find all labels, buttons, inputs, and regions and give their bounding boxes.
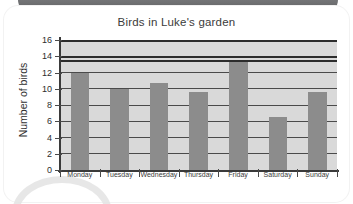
- y-tick-label-12: 12: [28, 68, 52, 78]
- plot-inner: [60, 40, 337, 170]
- x-tick-separator-2: [139, 169, 140, 177]
- x-axis-labels: MondayTuesdayWednesdayThursdayFridaySatu…: [60, 171, 337, 183]
- y-tick-mark-12: [55, 73, 62, 74]
- x-tick-separator-4: [218, 169, 219, 177]
- gridline-10: [60, 88, 337, 89]
- y-tick-mark-10: [55, 89, 62, 90]
- x-tick-separator-3: [179, 169, 180, 177]
- y-tick-label-4: 4: [28, 133, 52, 143]
- y-tick-mark-14: [55, 56, 62, 57]
- plot-area: [60, 40, 337, 170]
- screenshot-root: Birds in Luke's garden Number of birds 0…: [0, 0, 353, 204]
- chart-title: Birds in Luke's garden: [0, 16, 353, 28]
- bar-saturday: [269, 117, 288, 170]
- x-tick-label-wednesday: Wednesday: [139, 171, 179, 178]
- x-tick-label-saturday: Saturday: [258, 171, 298, 178]
- bar-friday: [229, 62, 248, 170]
- bar-monday: [71, 73, 90, 171]
- y-tick-mark-8: [55, 105, 62, 106]
- bar-thursday: [189, 92, 208, 170]
- x-tick-separator-6: [297, 169, 298, 177]
- bar-wednesday: [150, 83, 169, 170]
- x-tick-label-sunday: Sunday: [297, 171, 337, 178]
- x-tick-separator-5: [258, 169, 259, 177]
- y-tick-label-2: 2: [28, 149, 52, 159]
- x-tick-separator-1: [100, 169, 101, 177]
- x-tick-label-thursday: Thursday: [179, 171, 219, 178]
- x-tick-label-friday: Friday: [218, 171, 258, 178]
- y-tick-label-10: 10: [28, 84, 52, 94]
- gridline-14: [60, 56, 337, 58]
- x-tick-separator-end: [337, 169, 338, 177]
- gridline-16: [60, 40, 337, 42]
- y-tick-label-8: 8: [28, 100, 52, 110]
- x-tick-separator-0: [60, 169, 61, 177]
- gridline-12: [60, 72, 337, 73]
- y-tick-mark-4: [55, 138, 62, 139]
- y-tick-label-6: 6: [28, 116, 52, 126]
- y-tick-mark-6: [55, 121, 62, 122]
- x-tick-label-monday: Monday: [60, 171, 100, 178]
- y-tick-mark-2: [55, 154, 62, 155]
- y-tick-label-0: 0: [28, 165, 52, 175]
- y-tick-label-14: 14: [28, 51, 52, 61]
- x-tick-label-tuesday: Tuesday: [100, 171, 140, 178]
- gridline-emphasis: [60, 60, 337, 62]
- bar-tuesday: [110, 89, 129, 170]
- bar-sunday: [308, 92, 327, 170]
- y-tick-label-16: 16: [28, 35, 52, 45]
- y-tick-mark-16: [55, 40, 62, 41]
